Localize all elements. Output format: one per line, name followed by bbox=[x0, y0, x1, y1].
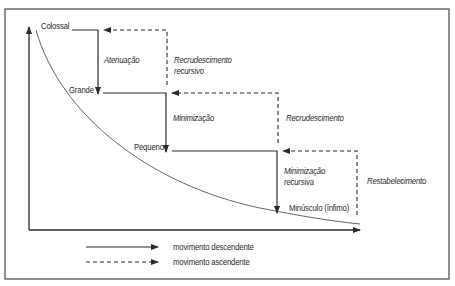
level-label-grande: Grande bbox=[69, 85, 94, 95]
outer-frame bbox=[5, 9, 449, 279]
diagram-canvas: Colossal Grande Pequeno Minúsculo (ínfim… bbox=[0, 0, 455, 286]
label-recrudescimento: Recrudescimento bbox=[286, 113, 344, 123]
label-atenuacao: Atenuação bbox=[104, 55, 139, 65]
label-minimizacao-recursiva-line2: recursiva bbox=[284, 177, 325, 188]
legend-label-ascendente: movimento ascendente bbox=[173, 257, 250, 267]
legend-label-descendente: movimento descendente bbox=[173, 242, 254, 252]
label-restabelecimento: Restabelecimento bbox=[367, 176, 426, 186]
label-recrudescimento-recursivo-line2: recursivo bbox=[174, 66, 232, 77]
level-label-pequeno: Pequeno bbox=[134, 142, 164, 152]
level-label-colossal: Colossal bbox=[41, 21, 69, 31]
level-label-minusculo: Minúsculo (ínfimo) bbox=[289, 203, 349, 213]
label-minimizacao-recursiva: Minimização recursiva bbox=[284, 166, 325, 188]
label-minimizacao: Minimização bbox=[173, 113, 214, 123]
label-recrudescimento-recursivo-line1: Recrudescimento bbox=[174, 55, 232, 66]
label-minimizacao-recursiva-line1: Minimização bbox=[284, 166, 325, 177]
label-recrudescimento-recursivo: Recrudescimento recursivo bbox=[174, 55, 232, 77]
step-pequeno-minusculo bbox=[172, 151, 277, 213]
